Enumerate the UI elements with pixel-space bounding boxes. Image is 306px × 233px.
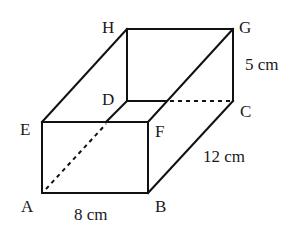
front-face-AEFB — [42, 122, 148, 193]
label-H: H — [102, 18, 114, 37]
label-G: G — [239, 18, 251, 37]
label-B: B — [155, 197, 166, 216]
label-height: 5 cm — [245, 55, 279, 74]
label-C: C — [240, 102, 251, 121]
label-A: A — [21, 197, 34, 216]
label-F: F — [155, 122, 164, 141]
cuboid-diagram: H G D C E F A B 5 cm 12 cm 8 cm — [0, 0, 306, 233]
label-width: 12 cm — [203, 147, 245, 166]
label-E: E — [20, 120, 30, 139]
label-length: 8 cm — [74, 205, 108, 224]
label-D: D — [102, 90, 114, 109]
edge-FG — [148, 29, 233, 122]
edge-AD-hidden — [46, 124, 106, 189]
